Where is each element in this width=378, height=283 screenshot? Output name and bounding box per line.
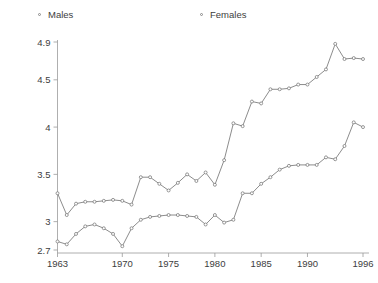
data-point [250,100,253,103]
data-point [93,223,96,226]
chart-container: Males Females 2.733.544.54.9 19631970197… [0,0,378,283]
data-point [260,182,263,185]
data-point [362,126,365,129]
data-point [223,159,226,162]
y-tick-label: 4 [45,122,50,133]
data-point [287,164,290,167]
data-point [278,88,281,91]
data-point [204,223,207,226]
data-point [158,182,161,185]
series-males [56,121,365,248]
data-point [167,189,170,192]
data-point [149,176,152,179]
data-point [167,214,170,217]
x-tick-label: 1963 [47,258,68,269]
data-point [121,199,124,202]
data-point [176,181,179,184]
plot-area: 2.733.544.54.9 1963197019751980198519901… [0,0,378,283]
data-point [56,192,59,195]
data-point [213,214,216,217]
series-line [58,44,364,215]
data-point [232,122,235,125]
data-point [343,58,346,61]
data-point [269,176,272,179]
data-point [232,218,235,221]
data-point [75,232,78,235]
y-tick-label: 2.7 [37,245,50,256]
data-point [278,168,281,171]
data-point [186,214,189,217]
data-point [158,214,161,217]
data-point [56,240,59,243]
data-point [297,163,300,166]
data-point [139,218,142,221]
data-point [324,156,327,159]
data-point [241,192,244,195]
data-point [250,192,253,195]
data-point [334,158,337,161]
data-point [269,88,272,91]
y-tick-label: 4.9 [37,37,50,48]
data-point [287,87,290,90]
data-point [315,75,318,78]
data-series-group [56,42,365,247]
data-point [102,199,105,202]
series-females [56,42,365,216]
data-point [75,202,78,205]
data-point [213,183,216,186]
data-point [315,163,318,166]
data-point [362,58,365,61]
data-point [343,145,346,148]
data-point [204,171,207,174]
data-point [130,227,133,230]
y-tick-label: 3.5 [37,169,50,180]
x-tick-label: 1985 [251,258,272,269]
data-point [195,179,198,182]
data-point [84,225,87,228]
data-point [65,243,68,246]
data-point [112,198,115,201]
x-tick-label: 1980 [204,258,225,269]
data-point [93,200,96,203]
data-point [306,83,309,86]
data-point [324,68,327,71]
data-point [176,214,179,217]
y-tick-label: 4.5 [37,74,50,85]
data-point [102,227,105,230]
data-point [352,57,355,60]
data-point [352,121,355,124]
data-point [65,214,68,217]
y-tick-label: 3 [45,216,50,227]
data-point [112,232,115,235]
y-axis: 2.733.544.54.9 [37,37,57,256]
data-point [130,203,133,206]
x-tick-label: 1996 [352,258,373,269]
data-point [334,42,337,45]
data-point [241,125,244,128]
data-point [121,245,124,248]
x-axis: 1963197019751980198519901996 [47,253,374,269]
data-point [139,176,142,179]
x-tick-label: 1975 [158,258,179,269]
data-point [297,83,300,86]
x-tick-label: 1990 [297,258,318,269]
data-point [195,215,198,218]
data-point [149,215,152,218]
x-tick-label: 1970 [112,258,133,269]
data-point [186,173,189,176]
data-point [260,102,263,105]
data-point [84,200,87,203]
data-point [223,221,226,224]
data-point [306,163,309,166]
